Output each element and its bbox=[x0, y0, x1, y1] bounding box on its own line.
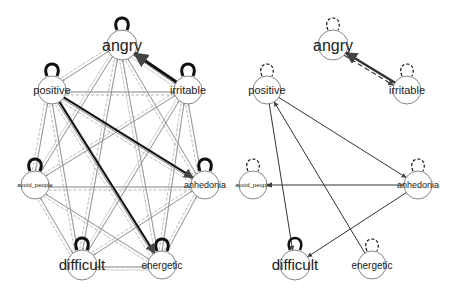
node-label: positive bbox=[248, 84, 285, 96]
edge bbox=[93, 191, 192, 255]
edge bbox=[308, 193, 407, 257]
node-label: angry bbox=[313, 37, 353, 54]
edge-strong bbox=[134, 53, 176, 82]
self-loop-icon bbox=[46, 64, 59, 76]
edge-dashed bbox=[80, 59, 115, 249]
node-label: positive bbox=[33, 84, 70, 96]
node-label: energetic bbox=[351, 260, 392, 271]
edge bbox=[40, 198, 72, 253]
node-label: energetic bbox=[141, 260, 182, 271]
node-label: angry bbox=[102, 37, 142, 54]
node-difficult[interactable]: difficult bbox=[59, 238, 106, 280]
node-irritable[interactable]: irritable bbox=[170, 64, 206, 104]
node-label: avoid_people bbox=[235, 182, 271, 188]
edge-dashed bbox=[49, 105, 74, 251]
edge bbox=[279, 97, 406, 177]
left-network-panel: angrypositiveirritableavoid_peopleanhedo… bbox=[17, 18, 226, 280]
edge bbox=[41, 57, 113, 172]
edge bbox=[123, 60, 158, 251]
self-loop-icon bbox=[116, 18, 129, 30]
self-loop-icon bbox=[199, 159, 212, 171]
edge-dashed bbox=[44, 197, 147, 262]
node-label: avoid_people bbox=[17, 182, 53, 188]
node-energetic[interactable]: energetic bbox=[141, 239, 182, 279]
self-loop-icon bbox=[366, 239, 379, 251]
node-anhedonia[interactable]: anhedonia bbox=[184, 159, 226, 199]
node-avoid_people[interactable]: avoid_people bbox=[17, 159, 53, 199]
edge-dashed bbox=[159, 103, 181, 250]
node-label: irritable bbox=[170, 84, 206, 96]
right-network-panel: angrypositiveirritableavoid_peopleanhedo… bbox=[235, 18, 439, 280]
self-loop-icon bbox=[412, 159, 425, 171]
node-anhedonia[interactable]: anhedonia bbox=[397, 159, 439, 199]
self-loop-icon bbox=[29, 159, 42, 171]
edge bbox=[46, 96, 175, 176]
edge bbox=[162, 104, 184, 251]
edge bbox=[63, 51, 109, 80]
self-loop-icon bbox=[327, 18, 340, 30]
node-irritable[interactable]: irritable bbox=[389, 64, 425, 104]
edge bbox=[344, 55, 393, 85]
edge-dashed bbox=[38, 200, 70, 255]
node-avoid_people[interactable]: avoid_people bbox=[235, 159, 271, 199]
node-difficult[interactable]: difficult bbox=[272, 238, 319, 280]
self-loop-icon bbox=[247, 159, 260, 171]
edge bbox=[46, 194, 149, 259]
self-loop-icon bbox=[156, 239, 169, 251]
edge-dashed bbox=[55, 105, 150, 256]
edge bbox=[269, 104, 292, 250]
network-diagram: angrypositiveirritableavoid_peopleanhedo… bbox=[0, 0, 453, 291]
edge bbox=[133, 55, 175, 84]
self-loop-icon bbox=[76, 238, 89, 250]
edges bbox=[267, 53, 406, 257]
self-loop-icon bbox=[182, 64, 195, 76]
node-label: difficult bbox=[272, 256, 319, 273]
self-loop-icon bbox=[401, 64, 414, 76]
node-label: irritable bbox=[389, 84, 425, 96]
edge bbox=[346, 53, 395, 83]
edge bbox=[274, 102, 365, 253]
node-label: anhedonia bbox=[397, 180, 439, 190]
self-loop-icon bbox=[261, 64, 274, 76]
edge bbox=[83, 59, 118, 249]
node-label: anhedonia bbox=[184, 180, 226, 190]
node-energetic[interactable]: energetic bbox=[351, 239, 392, 279]
edge-dashed bbox=[38, 55, 110, 170]
node-label: difficult bbox=[59, 256, 106, 273]
self-loop-icon bbox=[289, 238, 302, 250]
